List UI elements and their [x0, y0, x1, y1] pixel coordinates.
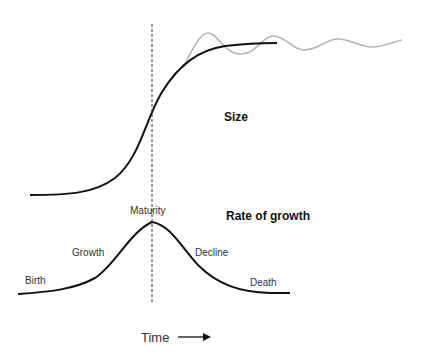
diagram-canvas — [0, 0, 421, 363]
life-cycle-diagram: Size Rate of growth Maturity Growth Birt… — [0, 0, 421, 363]
maturity-label: Maturity — [130, 206, 166, 216]
time-axis-label: Time — [141, 331, 169, 344]
birth-label: Birth — [25, 276, 46, 286]
decline-label: Decline — [195, 248, 228, 258]
time-arrow-head — [203, 333, 211, 341]
rate-of-growth-label: Rate of growth — [226, 210, 310, 222]
death-label: Death — [250, 278, 277, 288]
growth-label: Growth — [72, 248, 104, 258]
size-label: Size — [224, 111, 248, 123]
oscillation-curve — [183, 33, 402, 68]
